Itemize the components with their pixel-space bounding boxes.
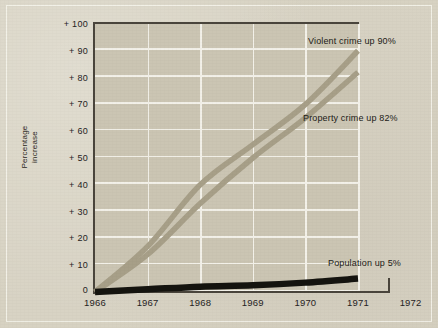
annotation-property-crime: Property crime up 82%	[303, 113, 398, 123]
x-tick-label: 1968	[180, 297, 220, 308]
y-tick-label: + 20	[48, 233, 88, 243]
y-tick-label: + 70	[48, 99, 88, 109]
y-tick-label: + 60	[48, 126, 88, 136]
y-axis-ticks: + 100 + 90 + 80 + 70 + 60 + 50 + 40 + 30…	[46, 0, 88, 328]
y-tick-label: + 90	[48, 46, 88, 56]
x-tick-label: 1970	[285, 297, 325, 308]
y-axis-title-line2: increase	[30, 107, 40, 187]
annotation-population: Population up 5%	[328, 258, 401, 268]
y-tick-label: + 100	[48, 19, 88, 29]
x-tick-label: 1966	[75, 297, 115, 308]
y-axis-title: Percentage increase	[20, 107, 40, 187]
x-tick-label: 1969	[233, 297, 273, 308]
y-tick-label: + 40	[48, 180, 88, 190]
series-line-violent-crime	[95, 51, 358, 292]
chart-figure: + 100 + 90 + 80 + 70 + 60 + 50 + 40 + 30…	[0, 0, 438, 328]
y-tick-label: 0	[48, 285, 88, 295]
x-tick-label: 1972	[391, 297, 431, 308]
series-line-population	[95, 279, 358, 292]
y-tick-label: + 50	[48, 153, 88, 163]
y-axis-title-line1: Percentage	[20, 107, 30, 187]
annotation-violent-crime: Violent crime up 90%	[308, 36, 396, 46]
y-tick-label: + 80	[48, 73, 88, 83]
y-tick-label: + 30	[48, 207, 88, 217]
y-tick-label: + 10	[48, 260, 88, 270]
x-tick-label: 1967	[128, 297, 168, 308]
x-tick-label: 1971	[338, 297, 378, 308]
